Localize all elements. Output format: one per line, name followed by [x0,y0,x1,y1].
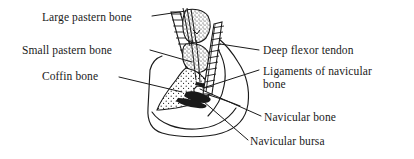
label-coffin-bone: Coffin bone [42,70,98,83]
label-deep-flexor-tendon: Deep flexor tendon [263,44,354,57]
large-pastern-bone-shape [183,9,210,43]
label-ligaments-line1: Ligaments of navicular [263,65,372,77]
label-navicular-bone: Navicular bone [264,111,336,124]
label-small-pastern-bone: Small pastern bone [22,44,112,57]
label-large-pastern-bone: Large pastern bone [42,11,132,24]
label-ligaments-of-navicular-bone: Ligaments of navicular bone [263,65,393,91]
leader-deep-flexor [220,44,259,50]
label-ligaments-line2: bone [263,78,286,90]
label-navicular-bursa: Navicular bursa [250,135,325,148]
hoof-anatomy-diagram: Large pastern bone Small pastern bone Co… [0,0,414,159]
leader-navicular-bone [200,89,261,116]
